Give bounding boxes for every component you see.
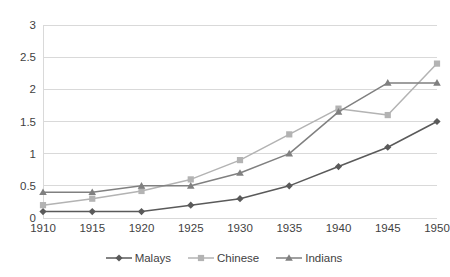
x-tick-label: 1945 [375, 222, 401, 234]
legend-item-malays[interactable]: Malays [106, 252, 171, 264]
series-line [43, 83, 437, 192]
x-tick-label: 1920 [129, 222, 155, 234]
data-point-marker [138, 208, 145, 215]
data-point-marker [198, 255, 204, 261]
legend-item-indians[interactable]: Indians [276, 252, 342, 264]
data-point-marker [433, 118, 440, 125]
data-point-marker [286, 131, 292, 137]
series-layer [39, 61, 441, 216]
y-tick-label: 3 [6, 19, 36, 31]
legend-item-chinese[interactable]: Chinese [188, 252, 259, 264]
y-tick-label: 1.5 [6, 116, 36, 128]
data-point-marker [286, 182, 293, 189]
x-tick-label: 1950 [424, 222, 450, 234]
series-malays [39, 118, 440, 215]
legend-swatch-triangle-icon [276, 253, 302, 263]
data-point-marker [385, 112, 391, 118]
data-point-marker [188, 176, 194, 182]
data-point-marker [237, 157, 243, 163]
x-tick-label: 1910 [30, 222, 56, 234]
data-point-marker [236, 195, 243, 202]
data-point-marker [434, 61, 440, 67]
y-tick-label: 2.5 [6, 51, 36, 63]
data-point-marker [384, 144, 391, 151]
legend-swatch-diamond-icon [106, 253, 132, 263]
chart-legend: MalaysChineseIndians [0, 252, 448, 264]
legend-label: Indians [305, 252, 342, 264]
data-point-marker [89, 196, 95, 202]
y-tick-label: 1 [6, 148, 36, 160]
x-tick-label: 1915 [79, 222, 105, 234]
x-tick-label: 1930 [227, 222, 253, 234]
data-point-marker [335, 163, 342, 170]
legend-label: Chinese [217, 252, 259, 264]
data-point-marker [187, 202, 194, 209]
y-tick-label: 2 [6, 83, 36, 95]
y-tick-label: 0.5 [6, 180, 36, 192]
gridlines [43, 25, 437, 218]
x-tick-label: 1925 [178, 222, 204, 234]
data-point-marker [39, 208, 46, 215]
data-point-marker [115, 254, 122, 261]
series-line [43, 64, 437, 206]
x-tick-label: 1940 [326, 222, 352, 234]
data-point-marker [138, 188, 144, 194]
legend-swatch-square-icon [188, 253, 214, 263]
series-indians [39, 79, 441, 195]
data-point-marker [89, 208, 96, 215]
legend-label: Malays [135, 252, 171, 264]
data-point-marker [40, 202, 46, 208]
x-tick-label: 1935 [276, 222, 302, 234]
